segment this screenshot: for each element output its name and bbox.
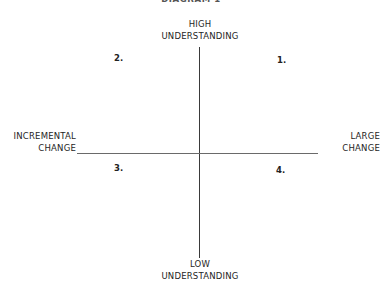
- label-line: UNDERSTANDING: [150, 30, 250, 42]
- label-line: INCREMENTAL: [4, 130, 76, 142]
- label-line: HIGH: [150, 18, 250, 30]
- quadrant-2-number: 2.: [114, 53, 123, 63]
- label-line: CHANGE: [4, 142, 76, 154]
- quadrant-3-number: 3.: [114, 163, 123, 173]
- high-understanding-label: HIGH UNDERSTANDING: [150, 18, 250, 42]
- label-line: UNDERSTANDING: [150, 270, 250, 282]
- quadrant-4-number: 4.: [276, 165, 285, 175]
- horizontal-axis: [77, 153, 318, 154]
- incremental-change-label: INCREMENTAL CHANGE: [4, 130, 76, 154]
- large-change-label: LARGE CHANGE: [318, 130, 380, 154]
- quadrant-1-number: 1.: [277, 55, 286, 65]
- low-understanding-label: LOW UNDERSTANDING: [150, 258, 250, 282]
- label-line: LOW: [150, 258, 250, 270]
- label-line: CHANGE: [318, 142, 380, 154]
- quadrant-diagram: DIAGRAM 1 HIGH UNDERSTANDING INCREMENTAL…: [0, 0, 382, 293]
- diagram-title: DIAGRAM 1: [0, 0, 382, 4]
- label-line: LARGE: [318, 130, 380, 142]
